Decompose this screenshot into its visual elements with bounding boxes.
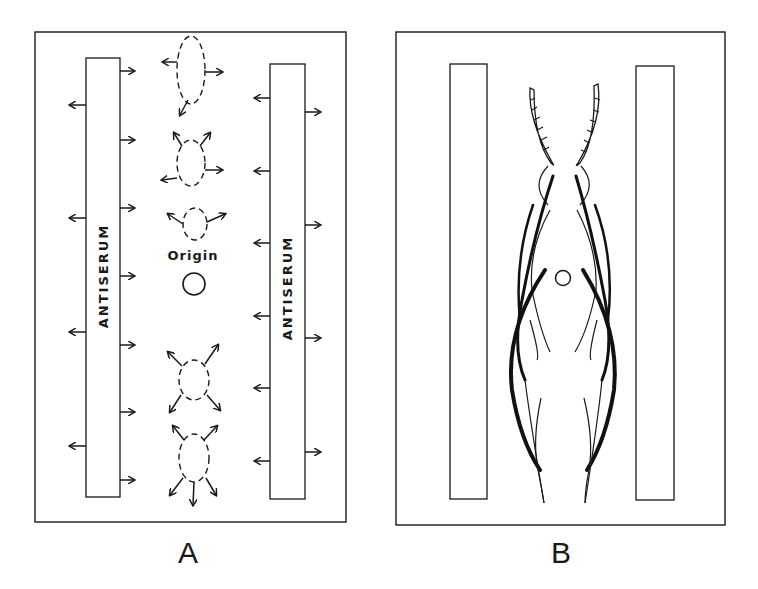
panel-b (396, 32, 725, 525)
panel-a-label: A (178, 536, 198, 570)
origin-well (556, 271, 571, 286)
antiserum-trough-right (636, 66, 674, 500)
origin-well (183, 273, 205, 295)
panel-a: Origin ANTISERUM ANTISERUM (35, 32, 346, 522)
immunoelectrophoresis-figure: Origin ANTISERUM ANTISERUM (0, 0, 758, 589)
origin-label: Origin (168, 248, 219, 263)
antiserum-label-right: ANTISERUM (280, 236, 295, 340)
panel-b-label: B (551, 536, 571, 570)
antiserum-label-left: ANTISERUM (96, 224, 111, 328)
antiserum-trough-left (450, 64, 487, 499)
